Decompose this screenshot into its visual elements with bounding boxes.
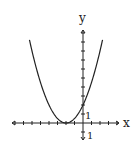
graph: x y 1 1 <box>0 0 137 152</box>
y-neg-unit-label: 1 <box>87 130 93 141</box>
parabola-curve <box>29 40 102 123</box>
y-unit-label: 1 <box>85 110 91 121</box>
y-axis-label: y <box>78 11 86 25</box>
x-axis-label: x <box>123 116 130 130</box>
